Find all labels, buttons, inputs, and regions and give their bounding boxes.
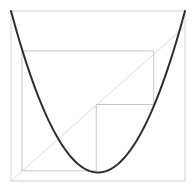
cobweb-path-group [22, 51, 154, 171]
cobweb-plot-svg [0, 0, 195, 191]
cobweb-diagram [0, 0, 195, 191]
parabola-curve [11, 11, 185, 173]
